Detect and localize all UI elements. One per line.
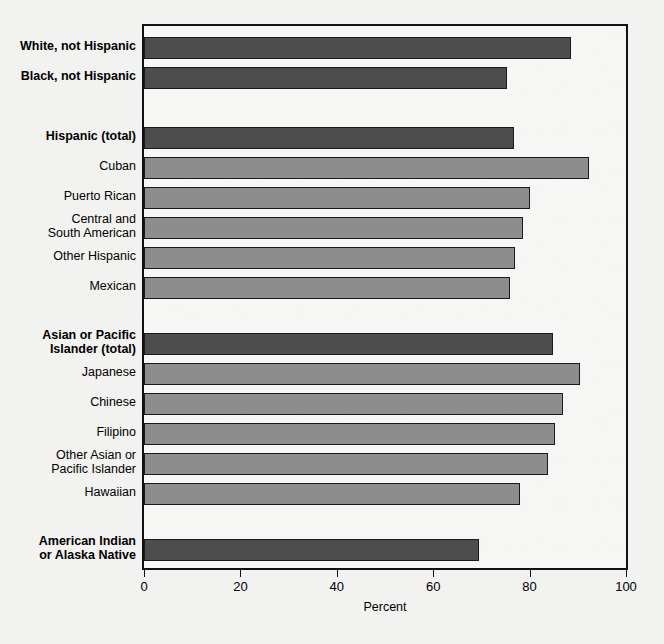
- bar: [144, 483, 520, 505]
- bar: [144, 37, 571, 59]
- category-label: Other Hispanic: [2, 249, 142, 263]
- bar-row: [144, 247, 626, 269]
- category-label: Mexican: [2, 279, 142, 293]
- bar-row: [144, 423, 626, 445]
- bar-row: [144, 217, 626, 239]
- category-label-column: White, not HispanicBlack, not HispanicHi…: [0, 24, 142, 570]
- category-label: Other Asian or Pacific Islander: [2, 448, 142, 476]
- x-axis-tick-label: 20: [233, 579, 247, 594]
- x-axis-tick: [240, 570, 241, 577]
- bar-row: [144, 157, 626, 179]
- bar: [144, 453, 548, 475]
- category-label: Filipino: [2, 425, 142, 439]
- bar-row: [144, 483, 626, 505]
- bar-row: [144, 37, 626, 59]
- x-axis-tick-label: 0: [140, 579, 147, 594]
- x-axis-tick: [626, 570, 627, 577]
- plot-area: [142, 24, 628, 570]
- bar: [144, 277, 510, 299]
- x-axis-tick: [337, 570, 338, 577]
- bar-chart-figure: White, not HispanicBlack, not HispanicHi…: [0, 0, 664, 644]
- bar: [144, 247, 515, 269]
- category-label: Hawaiian: [2, 485, 142, 499]
- category-label: Hispanic (total): [2, 129, 142, 143]
- x-axis-tick: [433, 570, 434, 577]
- x-axis-tick: [144, 570, 145, 577]
- bar: [144, 333, 553, 355]
- bar-row: [144, 453, 626, 475]
- category-label: American Indian or Alaska Native: [2, 534, 142, 562]
- bar: [144, 539, 479, 561]
- bar: [144, 67, 507, 89]
- x-axis-tick-label: 100: [615, 579, 637, 594]
- category-label: Chinese: [2, 395, 142, 409]
- bar: [144, 157, 589, 179]
- x-axis-tick-label: 80: [522, 579, 536, 594]
- bar: [144, 127, 514, 149]
- category-label: Puerto Rican: [2, 189, 142, 203]
- category-label: Central and South American: [2, 212, 142, 240]
- x-axis-title: Percent: [142, 600, 628, 614]
- category-label: White, not Hispanic: [2, 39, 142, 53]
- category-label: Cuban: [2, 159, 142, 173]
- x-axis-tick: [530, 570, 531, 577]
- bar: [144, 187, 530, 209]
- bar-row: [144, 539, 626, 561]
- bar: [144, 363, 580, 385]
- x-axis-tick-label: 40: [330, 579, 344, 594]
- x-axis-tick-label: 60: [426, 579, 440, 594]
- bar: [144, 423, 555, 445]
- bar-row: [144, 277, 626, 299]
- bar-row: [144, 393, 626, 415]
- bar-row: [144, 67, 626, 89]
- category-label: Black, not Hispanic: [2, 69, 142, 83]
- bar-row: [144, 363, 626, 385]
- category-label: Japanese: [2, 365, 142, 379]
- bar: [144, 217, 523, 239]
- bar-row: [144, 187, 626, 209]
- bar-row: [144, 333, 626, 355]
- bar: [144, 393, 563, 415]
- category-label: Asian or Pacific Islander (total): [2, 328, 142, 356]
- bar-row: [144, 127, 626, 149]
